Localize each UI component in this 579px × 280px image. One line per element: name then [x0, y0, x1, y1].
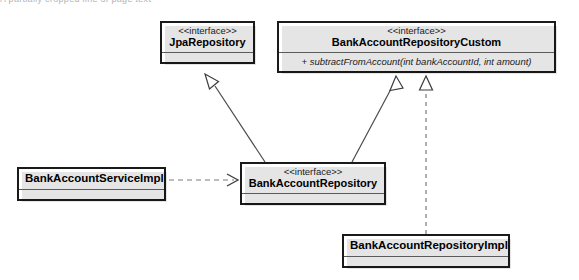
relationship-realization-impl-custom: [420, 76, 433, 234]
relationship-dependency-service-repository: [169, 174, 238, 186]
cropped-page-text: A partially cropped line of page text: [0, 0, 579, 4]
hollow-triangle-arrowhead-icon: [205, 74, 219, 89]
hollow-triangle-arrowhead-icon: [420, 76, 433, 90]
class-name: BankAccountServiceImpl: [25, 171, 158, 186]
hollow-triangle-arrowhead-icon: [390, 76, 403, 91]
class-name: JpaRepository: [168, 36, 247, 49]
open-arrowhead-icon: [227, 174, 238, 186]
class-header-bank-account-repository-custom: <<interface>> BankAccountRepositoryCusto…: [279, 23, 554, 53]
class-name: BankAccountRepository: [248, 177, 378, 190]
class-stereotype: <<interface>>: [168, 25, 247, 36]
relationship-generalization-repository-custom: [352, 76, 403, 162]
class-name: BankAccountRepositoryCustom: [285, 36, 548, 49]
class-box-jpa-repository[interactable]: <<interface>> JpaRepository: [160, 21, 255, 64]
class-stereotype: <<interface>>: [285, 25, 548, 36]
class-name: BankAccountRepositoryImpl: [350, 238, 502, 253]
class-box-bank-account-repository-impl[interactable]: BankAccountRepositoryImpl: [342, 234, 510, 268]
class-header-bank-account-repository: <<interface>> BankAccountRepository: [242, 164, 384, 194]
relationship-generalization-jpa-repository: [205, 74, 265, 162]
class-box-bank-account-repository-custom[interactable]: <<interface>> BankAccountRepositoryCusto…: [277, 21, 556, 73]
class-box-bank-account-repository[interactable]: <<interface>> BankAccountRepository: [240, 162, 386, 205]
class-operation: + subtractFromAccount(int bankAccountId,…: [287, 56, 546, 68]
class-box-bank-account-service-impl[interactable]: BankAccountServiceImpl: [17, 167, 166, 201]
class-empty-compartment: [162, 53, 253, 62]
class-header-bank-account-repository-impl: BankAccountRepositoryImpl: [344, 236, 508, 257]
uml-diagram-canvas: A partially cropped line of page text <<…: [0, 0, 579, 280]
class-empty-compartment: [19, 190, 164, 199]
class-stereotype: <<interface>>: [248, 166, 378, 177]
class-empty-compartment: [242, 194, 384, 203]
class-header-jpa-repository: <<interface>> JpaRepository: [162, 23, 253, 53]
class-operations-compartment: + subtractFromAccount(int bankAccountId,…: [279, 53, 554, 71]
class-empty-compartment: [344, 257, 508, 266]
class-header-bank-account-service-impl: BankAccountServiceImpl: [19, 169, 164, 190]
